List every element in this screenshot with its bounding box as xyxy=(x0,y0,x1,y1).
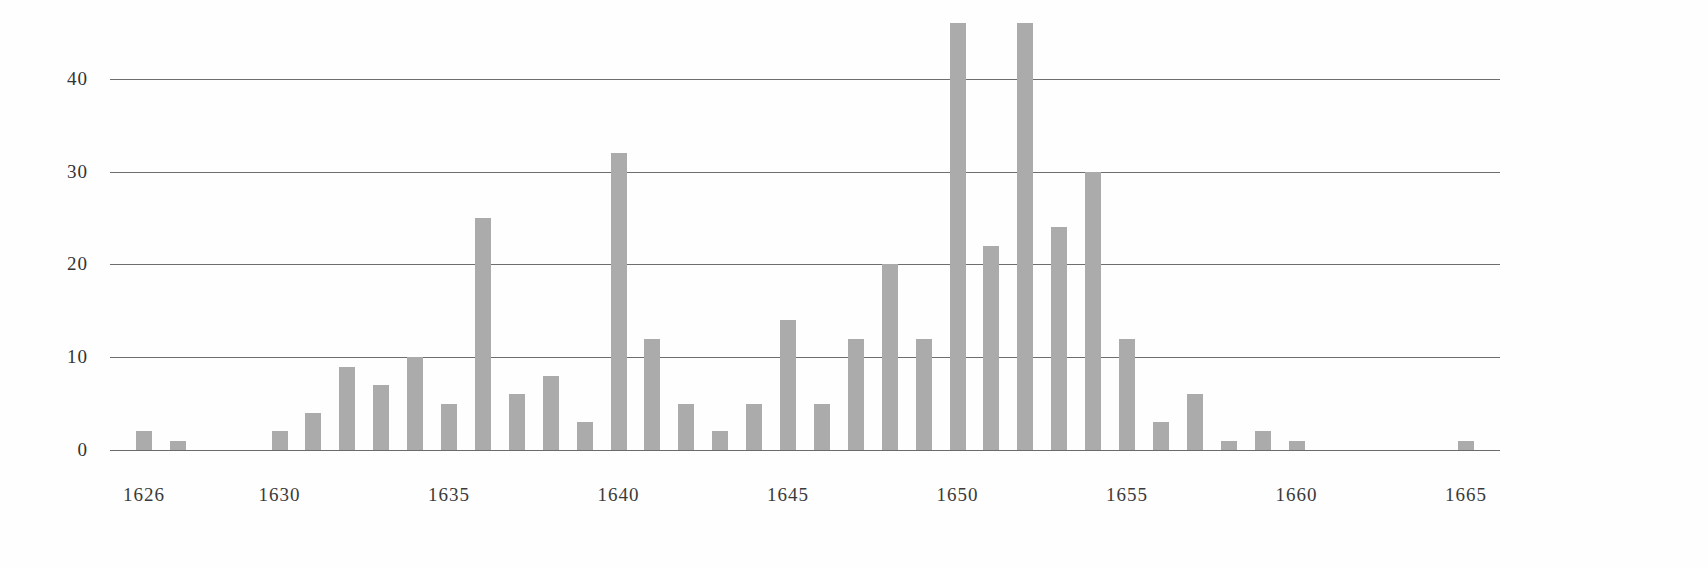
x-tick-label: 1645 xyxy=(767,484,809,506)
bar xyxy=(1017,23,1033,450)
bar xyxy=(1119,339,1135,450)
y-tick-label: 40 xyxy=(67,68,88,90)
bar xyxy=(814,404,830,450)
bar xyxy=(373,385,389,450)
bar xyxy=(1153,422,1169,450)
bar xyxy=(1458,441,1474,450)
x-tick-label: 1626 xyxy=(123,484,165,506)
bar xyxy=(848,339,864,450)
x-tick-label: 1650 xyxy=(937,484,979,506)
bar xyxy=(577,422,593,450)
bar xyxy=(644,339,660,450)
bar xyxy=(441,404,457,450)
x-tick-label: 1640 xyxy=(598,484,640,506)
bar xyxy=(746,404,762,450)
y-tick-label: 10 xyxy=(67,346,88,368)
bar xyxy=(1051,227,1067,450)
bar xyxy=(305,413,321,450)
bar xyxy=(1187,394,1203,450)
bars-layer xyxy=(110,14,1500,450)
x-tick-label: 1660 xyxy=(1276,484,1318,506)
x-tick-label: 1635 xyxy=(428,484,470,506)
bar xyxy=(475,218,491,450)
bar xyxy=(509,394,525,450)
bar xyxy=(272,431,288,450)
bar xyxy=(780,320,796,450)
axis-baseline xyxy=(110,450,1500,451)
y-tick-label: 30 xyxy=(67,161,88,183)
bar xyxy=(1085,172,1101,450)
bar xyxy=(916,339,932,450)
bar xyxy=(543,376,559,450)
x-tick-label: 1665 xyxy=(1445,484,1487,506)
bar xyxy=(712,431,728,450)
plot-area xyxy=(110,14,1500,450)
bar xyxy=(882,264,898,450)
y-tick-label: 0 xyxy=(78,439,89,461)
bar xyxy=(170,441,186,450)
bar xyxy=(983,246,999,450)
y-tick-label: 20 xyxy=(67,253,88,275)
x-tick-label: 1655 xyxy=(1106,484,1148,506)
y-axis-labels: 010203040 xyxy=(0,14,110,450)
bar xyxy=(611,153,627,450)
bar xyxy=(407,357,423,450)
bar xyxy=(136,431,152,450)
bar xyxy=(1289,441,1305,450)
bar xyxy=(1255,431,1271,450)
bar-chart: 010203040 162616301635164016451650165516… xyxy=(0,0,1708,568)
x-tick-label: 1630 xyxy=(259,484,301,506)
bar xyxy=(1221,441,1237,450)
x-axis-labels: 162616301635164016451650165516601665 xyxy=(110,462,1500,502)
bar xyxy=(339,367,355,450)
bar xyxy=(678,404,694,450)
bar xyxy=(950,23,966,450)
